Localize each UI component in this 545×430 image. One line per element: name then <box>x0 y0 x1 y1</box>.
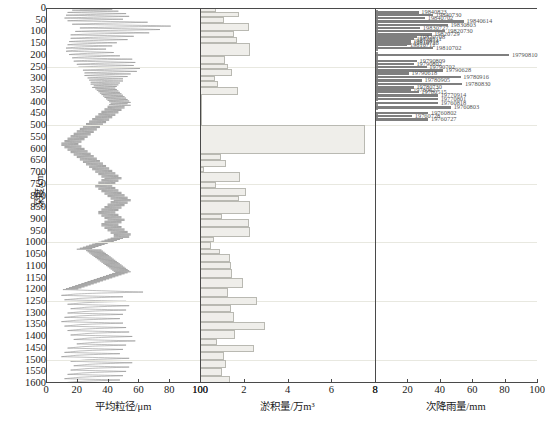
rainfall-bar <box>375 72 409 74</box>
sedimentation-bar <box>200 219 249 227</box>
gridline <box>375 301 537 302</box>
right-axis-left <box>375 8 376 383</box>
sedimentation-bar <box>200 288 228 296</box>
y-tick-label: 750 <box>6 179 46 190</box>
gridline <box>200 242 375 243</box>
y-tick-label: 1300 <box>6 307 46 318</box>
y-tick-label: 1250 <box>6 296 46 307</box>
y-tick-label: 1400 <box>6 331 46 342</box>
y-tick-label: 150 <box>6 38 46 49</box>
x-tick-mark <box>407 379 408 383</box>
middle-x-axis-title: 淤积量/万m³ <box>200 398 375 413</box>
sedimentation-bar <box>200 188 246 196</box>
y-tick-label: 1550 <box>6 366 46 377</box>
y-tick-label: 1150 <box>6 272 46 283</box>
grain-size-path <box>61 8 170 383</box>
sedimentation-bar <box>200 368 222 376</box>
y-tick-label: 950 <box>6 225 46 236</box>
x-tick-mark <box>288 379 289 383</box>
panel-sedimentation-volume: 1002468 淤积量/万m³ <box>200 8 375 383</box>
rainfall-bar <box>375 27 420 29</box>
rainfall-event-date-label: 19760727 <box>431 116 457 122</box>
x-tick-label: 60 <box>133 385 144 396</box>
y-tick-label: 1500 <box>6 354 46 365</box>
rainfall-event-date-label: 19780830 <box>465 81 491 87</box>
x-tick-label: 0 <box>43 385 48 396</box>
y-tick-label: 650 <box>6 155 46 166</box>
grain-size-line <box>46 8 200 383</box>
x-tick-label: 6 <box>329 385 334 396</box>
right-axis-top <box>375 8 537 9</box>
left-x-axis-title: 平均粒径/μm <box>46 398 200 413</box>
y-tick-label: 250 <box>6 61 46 72</box>
gridline <box>200 360 375 361</box>
rainfall-bar <box>375 94 438 96</box>
y-tick-label: 400 <box>6 97 46 108</box>
mid-axis-top <box>200 8 375 9</box>
sedimentation-bar <box>200 269 232 278</box>
y-tick-label: 0 <box>6 3 46 14</box>
sedimentation-bar <box>200 160 226 168</box>
x-tick-label: 20 <box>72 385 83 396</box>
x-tick-label: 100 <box>529 385 545 396</box>
x-tick-label: 80 <box>164 385 175 396</box>
x-tick-label: 60 <box>467 385 478 396</box>
sedimentation-bar <box>200 201 250 214</box>
gridline <box>46 242 200 243</box>
sedimentation-bar <box>200 360 226 368</box>
mid-axis-left <box>200 8 201 383</box>
rainfall-event-date-label: 19790810 <box>512 52 538 58</box>
gridline <box>375 125 537 126</box>
sedimentation-bar <box>200 125 365 154</box>
y-tick-label: 850 <box>6 202 46 213</box>
gridline <box>46 125 200 126</box>
x-tick-label: 40 <box>435 385 446 396</box>
y-tick-label: 1450 <box>6 343 46 354</box>
right-x-axis-title: 次降雨量/mm <box>375 398 537 413</box>
rainfall-bar <box>375 118 428 120</box>
x-tick-label: 40 <box>102 385 113 396</box>
y-axis: 深度/cm 0501001502002503003504004505005506… <box>0 8 46 383</box>
x-tick-mark <box>472 379 473 383</box>
left-axis-top <box>46 8 200 9</box>
sedimentation-bar <box>200 305 231 312</box>
y-tick-label: 900 <box>6 214 46 225</box>
y-tick-label: 350 <box>6 85 46 96</box>
sedimentation-bar <box>200 278 243 289</box>
sedimentation-bar <box>200 43 250 56</box>
x-tick-mark <box>505 379 506 383</box>
rainfall-event-date-label: 19760803 <box>454 104 480 110</box>
x-tick-mark <box>537 379 538 383</box>
y-tick-label: 1100 <box>6 261 46 272</box>
x-tick-label: 8 <box>372 385 377 396</box>
sedimentation-bar <box>200 352 224 360</box>
sedimentation-bar <box>200 322 265 330</box>
sedimentation-bar <box>200 23 249 31</box>
y-tick-label: 1600 <box>6 378 46 389</box>
sedimentation-bar <box>200 297 257 305</box>
x-tick-mark <box>375 379 376 383</box>
x-tick-label: 80 <box>499 385 510 396</box>
x-tick-mark <box>200 379 201 383</box>
x-tick-mark <box>244 379 245 383</box>
y-tick-label: 1050 <box>6 249 46 260</box>
x-tick-label: 2 <box>241 385 246 396</box>
y-tick-label: 450 <box>6 108 46 119</box>
sedimentation-bar <box>200 87 238 95</box>
y-tick-label: 800 <box>6 190 46 201</box>
x-tick-label: 20 <box>402 385 413 396</box>
gridline <box>375 242 537 243</box>
sedimentation-bar <box>200 312 234 322</box>
y-tick-label: 700 <box>6 167 46 178</box>
gridline <box>375 360 537 361</box>
y-tick-label: 300 <box>6 73 46 84</box>
rainfall-bar <box>375 98 438 100</box>
x-tick-mark <box>440 379 441 383</box>
rainfall-event-date-label: 19810702 <box>436 45 462 51</box>
y-tick-label: 500 <box>6 120 46 131</box>
y-tick-label: 100 <box>6 26 46 37</box>
x-tick-label: 100 <box>192 385 208 396</box>
y-tick-label: 550 <box>6 132 46 143</box>
y-tick-label: 1000 <box>6 237 46 248</box>
